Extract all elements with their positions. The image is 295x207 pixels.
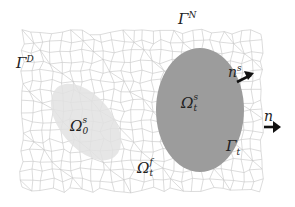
label-sub: t <box>149 169 153 178</box>
dirichlet-boundary-label: ΓD <box>16 55 34 71</box>
solid-initial-domain-label: Ωs0 <box>70 119 90 134</box>
label-sup: s <box>237 63 242 73</box>
label-base: Γ <box>178 10 188 28</box>
label-base: Γ <box>226 137 236 155</box>
label-sup: N <box>188 10 196 20</box>
label-base: n <box>264 108 273 124</box>
fluid-domain-label: Ωft <box>137 161 157 176</box>
label-base: Γ <box>16 54 26 72</box>
solid-current-domain-label: Ωst <box>181 96 201 111</box>
label-sub: 0 <box>82 127 88 136</box>
label-sup: s <box>193 93 198 102</box>
label-sup: s <box>82 116 87 125</box>
solid-normal-label: ns <box>228 64 242 79</box>
label-base: n <box>228 64 237 80</box>
outer-normal-label: n <box>264 109 273 123</box>
label-sup: D <box>26 54 33 64</box>
label-sub: t <box>236 147 240 157</box>
label-sup: f <box>149 158 152 167</box>
label-sub: t <box>193 104 197 113</box>
label-base: Ω <box>70 117 82 135</box>
label-base: Ω <box>181 94 193 112</box>
label-base: Ω <box>137 159 149 177</box>
interface-boundary-label: Γt <box>226 139 240 157</box>
neumann-boundary-label: ΓN <box>178 11 196 27</box>
